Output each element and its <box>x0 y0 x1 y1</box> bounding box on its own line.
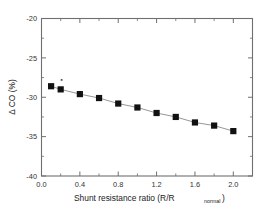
y-tick-label: -25 <box>26 54 37 63</box>
data-point-marker <box>58 86 64 92</box>
x-axis-title-subscript: normal <box>204 198 220 204</box>
y-axis-title: Δ CO (%) <box>7 79 17 115</box>
x-tick-label: 0.4 <box>75 180 85 189</box>
y-tick-label: -20 <box>26 14 37 23</box>
data-point-marker <box>134 104 140 110</box>
y-tick-label: -40 <box>26 172 37 181</box>
x-tick-label: 2.0 <box>228 180 238 189</box>
chart-canvas: 0.00.40.81.21.62.0 -20-25-30-35-40 Shunt… <box>0 0 266 212</box>
x-tick-label: 1.6 <box>190 180 200 189</box>
chart-figure: 0.00.40.81.21.62.0 -20-25-30-35-40 Shunt… <box>0 0 266 212</box>
x-axis-title: Shunt resistance ratio (R/R <box>74 193 175 203</box>
data-point-marker <box>96 95 102 101</box>
x-tick-label: 1.2 <box>151 180 161 189</box>
y-axis-title-group: Δ CO (%) <box>7 79 17 115</box>
x-tick-label: 0.8 <box>113 180 123 189</box>
data-point-marker <box>211 123 217 129</box>
data-point-marker <box>173 114 179 120</box>
stray-speck <box>61 79 63 81</box>
data-point-marker <box>230 128 236 134</box>
data-point-marker <box>115 100 121 106</box>
data-point-marker <box>153 110 159 116</box>
y-tick-label: -35 <box>26 132 37 141</box>
x-tick-label: 0.0 <box>36 180 46 189</box>
x-axis-title-tail: ) <box>222 193 225 203</box>
y-tick-label: -30 <box>26 93 37 102</box>
data-point-marker <box>192 119 198 125</box>
stray-speck-marks <box>61 79 63 81</box>
data-point-marker <box>48 83 54 89</box>
data-point-marker <box>77 91 83 97</box>
